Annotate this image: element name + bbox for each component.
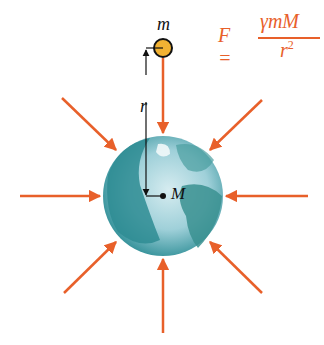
- formula-numerator: γmM: [260, 10, 299, 33]
- small-mass-label: m: [157, 14, 170, 35]
- arrow-top-left: [62, 98, 116, 150]
- arrow-bottom-left: [64, 242, 116, 293]
- distance-label: r: [140, 96, 147, 117]
- formula-denominator: r2: [280, 38, 294, 62]
- gravity-diagram: [0, 0, 324, 345]
- arrow-bottom-right: [210, 242, 262, 293]
- denominator-exponent: 2: [288, 38, 294, 52]
- denominator-base: r: [280, 39, 288, 61]
- arrow-top-right: [210, 100, 262, 150]
- formula-lhs: F =: [218, 24, 232, 70]
- large-mass-label: M: [171, 184, 185, 204]
- earth-center-dot: [160, 193, 166, 199]
